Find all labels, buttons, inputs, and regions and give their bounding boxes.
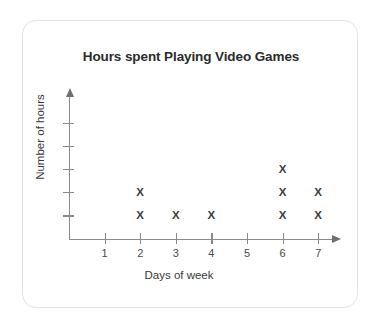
y-axis-arrow-icon	[66, 88, 74, 97]
x-axis-tick	[247, 233, 248, 244]
x-axis-arrow-icon	[332, 235, 341, 243]
y-axis-tick	[63, 123, 74, 124]
x-axis-tick-label: 3	[164, 247, 188, 259]
x-axis-tick-label: 6	[271, 247, 295, 259]
data-point-marker: X	[168, 208, 184, 222]
y-axis-title: Number of hours	[34, 77, 46, 197]
x-axis-title: Days of week	[69, 269, 289, 281]
x-axis-tick	[140, 233, 141, 244]
x-axis-tick	[211, 233, 212, 244]
x-axis-tick-label: 2	[128, 247, 152, 259]
y-axis-tick	[63, 192, 74, 193]
data-point-marker: X	[275, 162, 291, 176]
x-axis-tick-label: 5	[235, 247, 259, 259]
data-point-marker: X	[275, 185, 291, 199]
x-axis-tick	[105, 233, 106, 244]
x-axis-tick-label: 7	[306, 247, 330, 259]
x-axis-tick	[283, 233, 284, 244]
y-axis-line	[69, 96, 70, 239]
chart-card: Hours spent Playing Video Games 1234567 …	[22, 20, 358, 308]
plot-area: 1234567 XXXXXXXXX Number of hours Days o…	[23, 21, 359, 309]
y-axis-tick	[63, 215, 74, 216]
data-point-marker: X	[132, 185, 148, 199]
data-point-marker: X	[275, 208, 291, 222]
y-axis-tick	[63, 169, 74, 170]
data-point-marker: X	[310, 185, 326, 199]
data-point-marker: X	[310, 208, 326, 222]
y-axis-tick	[63, 146, 74, 147]
data-point-marker: X	[203, 208, 219, 222]
data-point-marker: X	[132, 208, 148, 222]
x-axis-tick	[318, 233, 319, 244]
x-axis-line	[69, 239, 334, 240]
x-axis-tick	[176, 233, 177, 244]
x-axis-tick-label: 1	[93, 247, 117, 259]
x-axis-tick-label: 4	[199, 247, 223, 259]
